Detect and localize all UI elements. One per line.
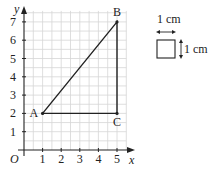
y-tick-label: 6 — [10, 33, 16, 47]
unit-square — [157, 40, 175, 58]
scale-height-label: 1 cm — [184, 42, 208, 56]
coordinate-diagram: y x O 123451234567 ABC 1 cm 1 cm — [0, 0, 209, 169]
x-tick-label: 2 — [58, 152, 64, 166]
x-axis-label: x — [128, 153, 135, 167]
y-axis-label: y — [13, 2, 20, 16]
y-tick-label: 4 — [10, 70, 16, 84]
point-a — [41, 112, 44, 115]
y-tick-label: 2 — [10, 106, 16, 120]
point-label-a: A — [30, 106, 39, 120]
arrow-up-icon — [179, 39, 183, 43]
scale-key: 1 cm 1 cm — [156, 12, 208, 59]
x-tick-label: 1 — [40, 152, 46, 166]
arrow-right-icon — [172, 30, 176, 34]
x-tick-label: 4 — [95, 152, 101, 166]
y-tick-label: 3 — [10, 88, 16, 102]
scale-width-label: 1 cm — [157, 12, 181, 26]
x-tick-label: 5 — [114, 152, 120, 166]
y-tick-label: 1 — [10, 125, 16, 139]
y-tick-label: 7 — [10, 15, 16, 29]
arrow-down-icon — [179, 55, 183, 59]
origin-label: O — [10, 152, 19, 166]
x-tick-label: 3 — [77, 152, 83, 166]
point-b — [115, 20, 118, 23]
axes: y x O — [10, 2, 135, 167]
arrow-left-icon — [156, 30, 160, 34]
y-tick-label: 5 — [10, 52, 16, 66]
grid — [24, 11, 126, 150]
point-label-c: C — [113, 115, 121, 129]
y-axis-arrow-icon — [21, 6, 27, 14]
point-label-b: B — [113, 5, 121, 19]
